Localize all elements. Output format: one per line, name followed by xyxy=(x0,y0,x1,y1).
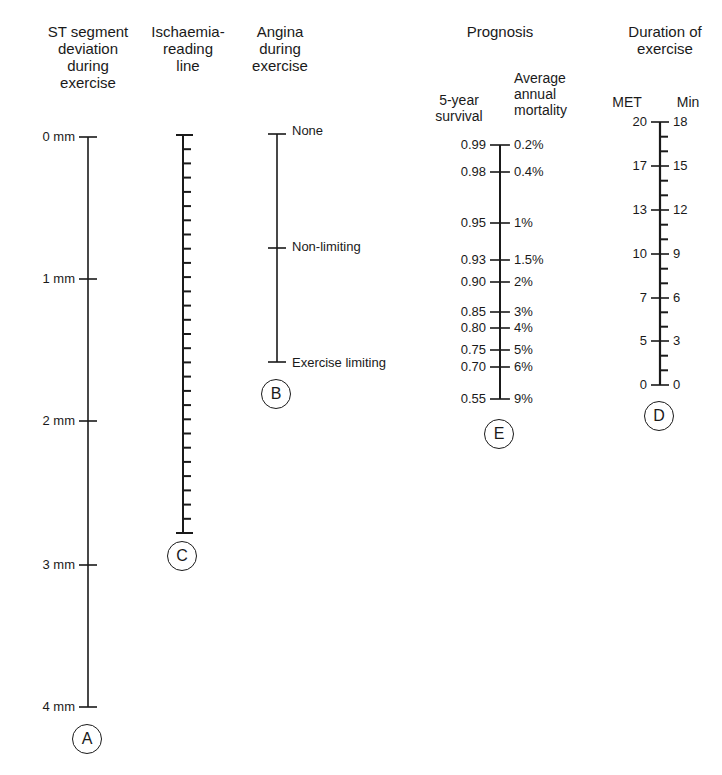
scale-c-title: Ischaemia- reading line xyxy=(143,23,233,74)
scale-a-tick-label: 1 mm xyxy=(20,272,75,286)
scale-e-mortality-label: 1.5% xyxy=(514,253,544,267)
scale-a-tick-label: 2 mm xyxy=(20,414,75,428)
scale-d-min-label: 0 xyxy=(673,378,680,392)
scale-d-marker: D xyxy=(644,401,674,431)
scale-e-mortality-label: 0.4% xyxy=(514,165,544,179)
scale-e-survival-label: 0.75 xyxy=(440,343,486,357)
scale-a-title: ST segment deviation during exercise xyxy=(28,23,148,91)
scale-e-survival-label: 0.93 xyxy=(440,253,486,267)
scale-d-right-title: Min xyxy=(668,94,708,111)
scale-e-mortality-label: 0.2% xyxy=(514,138,544,152)
scale-d-min-label: 12 xyxy=(673,203,687,217)
scale-e-title: Prognosis xyxy=(450,23,550,40)
scale-e-survival-label: 0.55 xyxy=(440,392,486,406)
scale-e-mortality-label: 3% xyxy=(514,305,533,319)
scale-b-tick-label: Non-limiting xyxy=(292,240,361,254)
scale-d-met-label: 0 xyxy=(615,378,647,392)
scale-e-survival-label: 0.98 xyxy=(440,165,486,179)
scale-a-tick-label: 4 mm xyxy=(20,700,75,714)
scale-d-met-label: 17 xyxy=(615,159,647,173)
scale-d-min-label: 15 xyxy=(673,159,687,173)
scale-d-met-label: 5 xyxy=(615,334,647,348)
scale-d-min-label: 18 xyxy=(673,115,687,129)
scale-e-mortality-label: 4% xyxy=(514,321,533,335)
scale-a-tick-label: 3 mm xyxy=(20,558,75,572)
scale-e-survival-label: 0.85 xyxy=(440,305,486,319)
scale-d-left-title: MET xyxy=(607,94,647,111)
scale-e-survival-label: 0.95 xyxy=(440,216,486,230)
scale-e-survival-label: 0.70 xyxy=(440,360,486,374)
scale-e-mortality-label: 6% xyxy=(514,360,533,374)
scale-b-tick-label: Exercise limiting xyxy=(292,356,386,370)
scale-d-min-label: 9 xyxy=(673,247,680,261)
scale-d-met-label: 7 xyxy=(615,291,647,305)
scale-b-marker: B xyxy=(261,379,291,409)
scale-b-tick-label: None xyxy=(292,124,323,138)
scale-e-right-title: Average annual mortality xyxy=(514,70,586,118)
scale-d-title: Duration of exercise xyxy=(610,23,720,57)
nomogram-lines xyxy=(0,0,722,775)
scale-a-marker: A xyxy=(72,724,102,754)
scale-a-tick-label: 0 mm xyxy=(20,130,75,144)
scale-c-marker: C xyxy=(167,541,197,571)
scale-d-met-label: 10 xyxy=(615,247,647,261)
scale-d-met-label: 20 xyxy=(615,115,647,129)
scale-e-mortality-label: 2% xyxy=(514,275,533,289)
scale-d-met-label: 13 xyxy=(615,203,647,217)
scale-b-title: Angina during exercise xyxy=(240,23,320,74)
scale-e-mortality-label: 9% xyxy=(514,392,533,406)
scale-e-left-title: 5-year survival xyxy=(424,92,494,124)
scale-d-min-label: 6 xyxy=(673,291,680,305)
scale-e-mortality-label: 5% xyxy=(514,343,533,357)
scale-e-mortality-label: 1% xyxy=(514,216,533,230)
scale-e-survival-label: 0.80 xyxy=(440,321,486,335)
scale-e-survival-label: 0.99 xyxy=(440,138,486,152)
scale-e-marker: E xyxy=(484,419,514,449)
scale-d-min-label: 3 xyxy=(673,334,680,348)
scale-e-survival-label: 0.90 xyxy=(440,275,486,289)
